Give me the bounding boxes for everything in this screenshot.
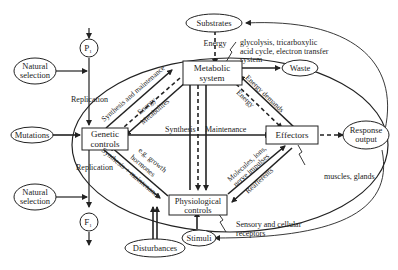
ns-bottom-label-2: selection	[20, 196, 51, 206]
synthesis-label: Synthesis	[165, 125, 196, 134]
substrates-node: Substrates	[186, 14, 242, 32]
mutations-node: Mutations	[11, 127, 53, 143]
physiological-label-2: controls	[184, 205, 211, 215]
maintenance-label: Maintenance	[205, 125, 247, 134]
natural-selection-top-node: Natural selection	[14, 58, 56, 84]
energy-right-label: Energy	[235, 88, 257, 110]
sensory-label-2: receptors	[236, 229, 265, 238]
metabolic-system-box: Metabolic system	[183, 61, 242, 85]
disturbances-label: Disturbances	[133, 243, 177, 253]
sensory-label-1: Sensory and cellular	[236, 220, 302, 229]
glycolysis-label-3: system	[240, 55, 263, 64]
metabolic-label-1: Metabolic	[194, 63, 231, 73]
waste-node: Waste	[282, 60, 318, 76]
effectors-label: Effectors	[276, 130, 309, 140]
response-label-2: output	[355, 134, 377, 144]
mutations-label: Mutations	[15, 130, 49, 140]
genetic-label-1: Genetic	[91, 129, 119, 139]
stimuli-node: Stimuli	[182, 230, 216, 246]
sensory-pointer	[218, 213, 226, 232]
replication-bottom-label: Replication	[76, 163, 113, 172]
natural-selection-bottom-node: Natural selection	[14, 184, 56, 210]
substrates-label: Substrates	[197, 18, 232, 28]
physiological-controls-box: Physiological controls	[169, 195, 227, 215]
response-output-node: Response output	[343, 121, 389, 149]
waste-label: Waste	[290, 63, 311, 73]
muscles-glands-label: muscles, glands	[324, 172, 375, 181]
replication-top-label: Replication	[71, 95, 108, 104]
disturbances-node: Disturbances	[125, 239, 185, 257]
effectors-box: Effectors	[266, 126, 318, 144]
metabolic-label-2: system	[199, 73, 224, 83]
f1-node: F1	[80, 213, 98, 231]
systems-diagram: Metabolic system Genetic controls Effect…	[0, 0, 398, 270]
ns-top-label-2: selection	[20, 70, 51, 80]
energy-top-label: Energy	[204, 39, 227, 48]
stimuli-label: Stimuli	[186, 233, 212, 243]
glycolysis-pointer	[226, 42, 236, 62]
p1-node: P1	[80, 39, 98, 57]
glycolysis-label-1: glycolysis, tricarboxylic	[240, 38, 318, 47]
muscles-pointer	[298, 145, 305, 165]
